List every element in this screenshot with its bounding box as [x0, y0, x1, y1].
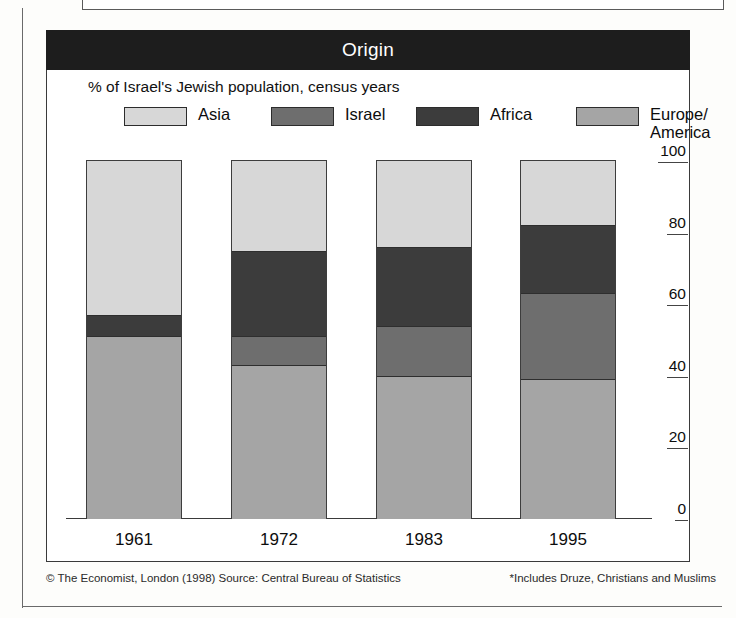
bar-1972	[231, 160, 327, 518]
bar-segment-africa	[87, 315, 181, 336]
bar-segment-asia	[232, 161, 326, 251]
x-axis-label-1983: 1983	[364, 530, 484, 550]
y-axis-tick-label: 60	[667, 285, 688, 306]
chart-footer: © The Economist, London (1998) Source: C…	[46, 572, 722, 594]
y-axis-tick-label: 80	[667, 214, 688, 235]
bar-segment-europe-america	[87, 336, 181, 519]
y-axis-tick-80: 80	[644, 214, 688, 235]
bar-segment-africa	[232, 251, 326, 337]
bar-segment-africa	[377, 247, 471, 326]
scan-artifact-frame-left	[22, 8, 23, 608]
x-axis-label-1972: 1972	[219, 530, 339, 550]
y-axis-tick-100: 100	[644, 142, 688, 163]
bar-segment-asia	[87, 161, 181, 315]
scan-artifact-frame-bottom	[22, 606, 722, 607]
bar-segment-africa	[521, 225, 615, 293]
bar-segment-asia	[521, 161, 615, 225]
bar-segment-israel	[377, 326, 471, 376]
chart-y-axis: 020406080100	[642, 30, 690, 522]
scan-artifact-frame-top	[82, 0, 724, 10]
bar-segment-israel	[521, 293, 615, 379]
chart-plot-area: 1961197219831995	[46, 30, 690, 522]
footer-credit: © The Economist, London (1998) Source: C…	[46, 572, 401, 584]
footer-note: *Includes Druze, Christians and Muslims	[510, 572, 716, 584]
y-axis-tick-label: 20	[667, 428, 688, 449]
bar-segment-israel	[232, 336, 326, 365]
y-axis-tick-60: 60	[644, 285, 688, 306]
bar-1961	[86, 160, 182, 518]
bar-1983	[376, 160, 472, 518]
y-axis-tick-label: 0	[675, 500, 688, 521]
y-axis-tick-label: 40	[667, 357, 688, 378]
y-axis-tick-label: 100	[658, 142, 688, 163]
bar-segment-asia	[377, 161, 471, 247]
y-axis-tick-40: 40	[644, 357, 688, 378]
x-axis-label-1995: 1995	[508, 530, 628, 550]
y-axis-tick-0: 0	[644, 500, 688, 521]
bar-segment-europe-america	[521, 379, 615, 519]
bar-segment-europe-america	[232, 365, 326, 519]
chart-card: Origin % of Israel's Jewish population, …	[46, 30, 690, 562]
x-axis-label-1961: 1961	[74, 530, 194, 550]
y-axis-tick-20: 20	[644, 428, 688, 449]
bar-segment-europe-america	[377, 376, 471, 519]
bar-1995	[520, 160, 616, 518]
